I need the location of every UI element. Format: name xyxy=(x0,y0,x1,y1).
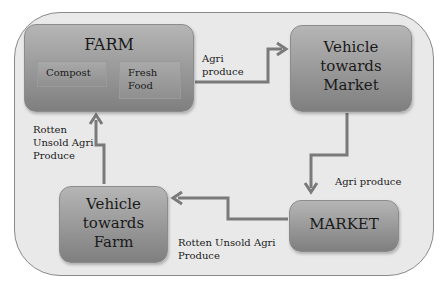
farm-title: FARM xyxy=(25,35,193,54)
edge-label-line: Rotten Unsold Agri xyxy=(178,236,276,249)
market-node: MARKET xyxy=(289,200,399,252)
edge-label-line: produce xyxy=(202,65,244,78)
fresh-food-label-line1: Fresh xyxy=(128,66,180,79)
node-label-line: Market xyxy=(291,76,411,95)
edge-label-farm-to-vehicle: Agri produce xyxy=(202,52,244,78)
fresh-food-label-line2: Food xyxy=(128,79,180,92)
edge-label-market-to-vehicle: Rotten Unsold Agri Produce xyxy=(178,236,276,262)
farm-node: FARM Compost Fresh Food xyxy=(24,24,194,112)
vehicle-towards-farm-node: Vehicle towards Farm xyxy=(59,186,168,263)
edge-label-line: Rotten xyxy=(33,123,93,136)
arrow-vehicle-to-farm xyxy=(96,120,104,184)
edge-label-line: Produce xyxy=(33,149,93,162)
arrow-market-to-vehicle-farm xyxy=(178,198,288,219)
vehicle-towards-market-node: Vehicle towards Market xyxy=(290,25,412,112)
node-label-line: Farm xyxy=(60,233,167,252)
node-label-line: Vehicle xyxy=(60,195,167,214)
edge-label-line: Unsold Agri xyxy=(33,136,93,149)
node-label-line: towards xyxy=(60,214,167,233)
node-label: MARKET xyxy=(290,215,398,233)
edge-label-vehicle-to-market: Agri produce xyxy=(335,175,401,188)
node-label-line: Vehicle xyxy=(291,38,411,57)
node-label-line: towards xyxy=(291,57,411,76)
edge-label-line: Produce xyxy=(178,249,276,262)
edge-label-line: Agri xyxy=(202,52,244,65)
compost-node: Compost xyxy=(37,61,107,87)
edge-label-vehicle-to-farm: Rotten Unsold Agri Produce xyxy=(33,123,93,162)
fresh-food-node: Fresh Food xyxy=(119,61,181,99)
